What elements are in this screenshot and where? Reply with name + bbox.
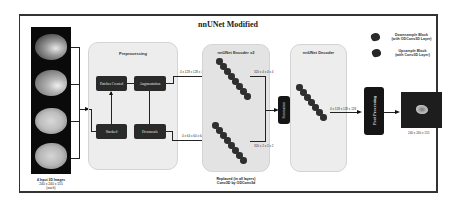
patches-created-box: Patches Created <box>96 76 127 91</box>
summation-label: Summation <box>282 102 286 119</box>
connector-line <box>173 76 174 84</box>
edge-label-enc-top: 320 x 4 x 4 x 4 <box>254 70 274 74</box>
mri-image-4 <box>35 143 67 169</box>
edge-label-enc-bottom: 320 x 2 x 2 x 2 <box>254 144 274 148</box>
edge-label-dec: 4 x 128 x 128 x 128 <box>330 107 356 111</box>
mri-image-2 <box>35 70 67 96</box>
connector-line <box>250 141 266 142</box>
arrow-icon <box>395 110 400 114</box>
connector-line <box>172 131 173 140</box>
connector-line <box>91 109 92 131</box>
legend-downsample: Downsample Block (with ODConv3D Layer) <box>383 33 440 42</box>
summation-box: Summation <box>278 96 290 124</box>
legend-upsample-line2: (with Conv3D Layer) <box>385 53 440 57</box>
arrow-icon <box>357 110 362 114</box>
decoder-title: nnUNet Decoder <box>291 50 346 55</box>
connector-line <box>250 76 266 77</box>
diagram-title: nnUNet Modified <box>20 20 436 29</box>
post-processing-box: Post Processing <box>364 87 384 135</box>
encoder-caption: Replaced (in all layers) Conv3D by ODCon… <box>196 177 276 186</box>
connector-line <box>127 83 134 84</box>
connector-line <box>79 47 80 159</box>
input-caption: 4 Input 3D Images 240 x 240 x 155 (each) <box>26 178 76 190</box>
arrow-up-icon <box>109 91 113 95</box>
preprocessing-panel: Preprocessing <box>88 42 178 170</box>
input-caption-line3: (each) <box>26 186 76 190</box>
connector-line <box>166 83 173 84</box>
stacked-box: Stacked <box>96 124 127 139</box>
connector-line <box>111 92 112 124</box>
edge-label-down: 4 x 64 x 64 x 64 <box>182 134 203 138</box>
mri-image-1 <box>35 34 67 60</box>
tumor-segmentation-icon <box>416 105 428 114</box>
encoder-caption-line2: Conv3D by ODConv3d <box>196 181 276 185</box>
mri-image-3 <box>35 108 67 134</box>
encoder-title: nnUNet Encoder x2 <box>203 50 269 55</box>
post-processing-label: Post Processing <box>372 96 377 125</box>
augmentation-box: Augmentation <box>134 76 166 91</box>
preprocessing-title: Preprocessing <box>89 51 177 56</box>
downscale-box: Downscale <box>134 124 166 139</box>
input-images-strip <box>31 27 71 174</box>
connector-line <box>265 76 266 142</box>
connector-line <box>330 112 358 113</box>
legend-downsample-line2: (with ODConv3D Layer) <box>383 37 440 41</box>
output-caption: 240 x 240 x 155 <box>408 131 429 135</box>
connector-line <box>149 91 150 124</box>
legend-upsample: Upsample Block (with Conv3D Layer) <box>385 49 440 58</box>
output-segmentation-image <box>401 92 442 128</box>
